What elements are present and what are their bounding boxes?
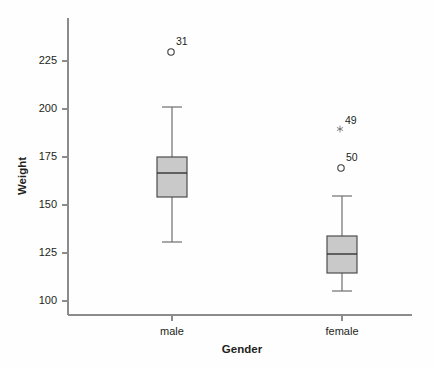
female-outlier-label: 50 [346,151,358,163]
y-axis-title: Weight [16,157,28,195]
male-outlier-label: 31 [176,35,188,47]
x-tick-label-male: male [160,325,184,337]
female-extreme-outlier-label: 49 [345,114,357,126]
y-tick-label-175: 175 [39,150,57,162]
y-tick-label-225: 225 [39,54,57,66]
y-tick-label-150: 150 [39,198,57,210]
x-axis-title: Gender [222,343,263,355]
plot-canvas: 225 200 175 150 125 100 Weight male fema… [0,0,434,367]
y-tick-label-100: 100 [39,294,57,306]
male-box[interactable] [157,157,187,197]
y-tick-label-200: 200 [39,102,57,114]
boxplot-male[interactable]: 31 [157,35,188,242]
x-tick-label-female: female [325,325,358,337]
x-axis: male female Gender [68,315,412,355]
female-outlier-circle[interactable] [338,165,344,171]
female-extreme-outlier-star[interactable] [337,126,343,133]
y-axis: 225 200 175 150 125 100 Weight [16,18,68,315]
boxplot-chart: 225 200 175 150 125 100 Weight male fema… [0,0,434,367]
boxplot-female[interactable]: 49 50 [327,114,358,291]
y-tick-label-125: 125 [39,246,57,258]
male-outlier-circle[interactable] [168,49,174,55]
